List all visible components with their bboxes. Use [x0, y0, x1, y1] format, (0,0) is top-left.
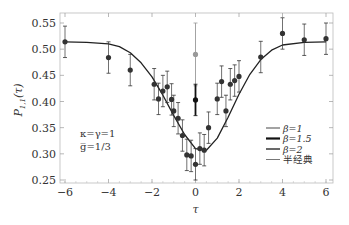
y-axis-label: P1,1(τ) — [12, 83, 27, 117]
data-point-marker — [280, 31, 285, 36]
y-tick-label: 0.30 — [32, 148, 57, 161]
x-tick-label: −2 — [144, 186, 160, 199]
param-kappa-gamma: κ=γ=1 — [80, 128, 115, 139]
data-point-marker — [219, 79, 224, 84]
x-tick-label: 0 — [192, 186, 199, 199]
data-point-marker — [106, 55, 111, 60]
data-point-marker — [152, 82, 157, 87]
x-tick-label: −4 — [100, 186, 116, 199]
data-point-marker — [228, 82, 233, 87]
data-point-marker — [223, 108, 228, 113]
data-point-marker — [180, 133, 185, 138]
legend-label: β=1.5 — [282, 133, 312, 144]
y-tick-label: 0.35 — [32, 122, 57, 135]
y-tick-label: 0.45 — [32, 69, 57, 82]
data-point-marker — [128, 68, 133, 73]
data-point-marker — [169, 97, 174, 102]
data-point-marker — [258, 54, 263, 59]
data-point-marker — [302, 37, 307, 42]
x-axis-label: τ — [192, 203, 199, 216]
data-point-marker — [232, 78, 237, 83]
x-tick-label: 4 — [279, 186, 286, 199]
gray-point-marker — [193, 52, 198, 57]
data-point-marker — [236, 74, 241, 79]
data-point-marker — [206, 125, 211, 130]
data-point-marker — [202, 148, 207, 153]
x-tick-label: −6 — [57, 186, 73, 199]
data-point-marker — [176, 116, 181, 121]
legend-label: β=1 — [282, 123, 303, 134]
y-tick-label: 0.25 — [32, 174, 57, 187]
data-point-marker — [323, 36, 328, 41]
data-point-marker — [193, 162, 198, 167]
data-point-marker — [165, 84, 170, 89]
chart-container: −6−4−202460.250.300.350.400.450.500.55τP… — [0, 0, 349, 225]
data-point-marker — [160, 88, 165, 93]
data-point-marker — [215, 96, 220, 101]
chart-svg: −6−4−202460.250.300.350.400.450.500.55τP… — [0, 0, 349, 225]
data-point-marker — [184, 152, 189, 157]
param-g: g̅=1/3 — [80, 141, 111, 152]
data-point-marker — [193, 97, 198, 102]
y-tick-label: 0.40 — [32, 96, 57, 109]
data-point-marker — [189, 153, 194, 158]
data-point-marker — [156, 96, 161, 101]
legend: β=1β=1.5β=2半经典 — [266, 123, 313, 166]
data-point-marker — [62, 39, 67, 44]
annotations: κ=γ=1g̅=1/3 — [80, 128, 115, 152]
y-tick-label: 0.50 — [32, 43, 57, 56]
legend-label: β=2 — [282, 144, 303, 155]
data-point-marker — [171, 108, 176, 113]
x-tick-label: 2 — [236, 186, 243, 199]
legend-label: 半经典 — [283, 154, 313, 165]
x-tick-label: 6 — [323, 186, 330, 199]
y-tick-label: 0.55 — [32, 17, 57, 30]
